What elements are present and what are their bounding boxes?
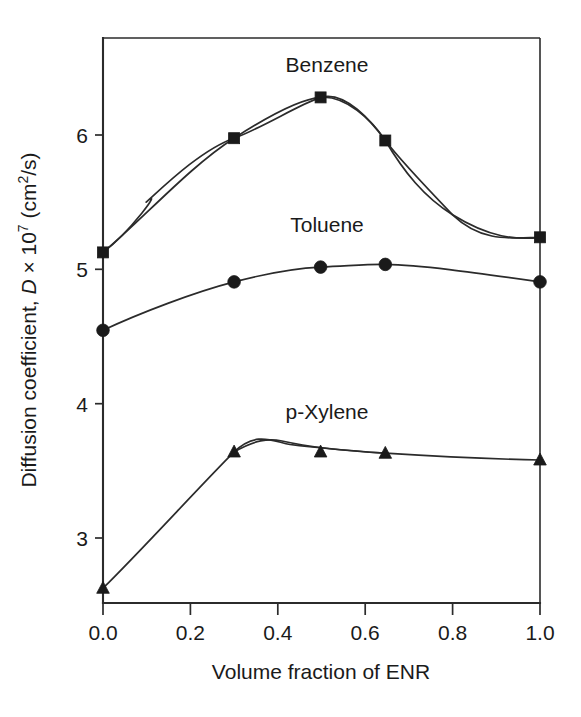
toluene-point-marker	[228, 276, 241, 289]
toluene-point-marker	[314, 261, 327, 274]
y-axis-title-prefix: Diffusion coefficient,	[17, 295, 40, 488]
chart-figure: 6 5 4 3 0.0 0.2 0.4 0.6 0.8 1.0 Volume f…	[0, 0, 581, 717]
y-tick-label: 4	[76, 393, 88, 416]
series-label-benzene: Benzene	[286, 53, 369, 76]
y-axis-title-exponent: 7	[15, 224, 31, 232]
x-tick-label: 0.0	[88, 621, 117, 644]
y-axis-title: Diffusion coefficient, D × 107 (cm2/s)	[15, 152, 40, 487]
benzene-point-marker	[535, 232, 546, 243]
toluene-point-marker	[534, 276, 547, 289]
x-tick-label: 1.0	[525, 621, 554, 644]
x-tick-label: 0.4	[263, 621, 293, 644]
svg-text:Diffusion coefficient, D × 107: Diffusion coefficient, D × 107 (cm2/s)	[15, 152, 40, 487]
benzene-point-marker	[380, 135, 391, 146]
y-axis-title-suffix: (cm	[17, 184, 40, 225]
benzene-point-marker	[229, 133, 240, 144]
y-tick-label: 5	[76, 258, 88, 281]
chart-background	[0, 0, 581, 717]
benzene-point-marker	[315, 92, 326, 103]
y-axis-title-symbol: D	[17, 279, 40, 294]
toluene-point-marker	[379, 258, 392, 271]
series-label-p-xylene: p-Xylene	[286, 400, 369, 423]
series-label-toluene: Toluene	[290, 213, 364, 236]
y-tick-label: 6	[76, 124, 88, 147]
y-tick-label: 3	[76, 527, 88, 550]
toluene-point-marker	[97, 324, 110, 337]
y-axis-title-tail: /s)	[17, 152, 40, 175]
benzene-point-marker	[98, 247, 109, 258]
x-tick-label: 0.6	[351, 621, 380, 644]
x-tick-label: 0.2	[176, 621, 205, 644]
x-axis-title: Volume fraction of ENR	[212, 660, 430, 683]
y-axis-title-unit-exponent: 2	[15, 176, 31, 184]
y-axis-title-mid: × 10	[17, 232, 40, 279]
x-tick-label: 0.8	[438, 621, 467, 644]
diffusion-coefficient-line-chart: 6 5 4 3 0.0 0.2 0.4 0.6 0.8 1.0 Volume f…	[0, 0, 581, 717]
